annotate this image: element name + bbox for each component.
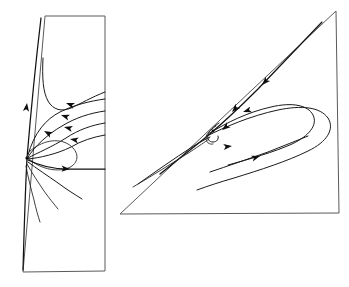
- figure-root: Phase portraits of a planar vector field: [0, 0, 349, 287]
- phase-portrait-figure: Phase portraits of a planar vector field: [0, 0, 349, 287]
- figure-background: [0, 0, 349, 287]
- left-saddle-point: [25, 156, 28, 159]
- right-focus-point: [212, 130, 215, 133]
